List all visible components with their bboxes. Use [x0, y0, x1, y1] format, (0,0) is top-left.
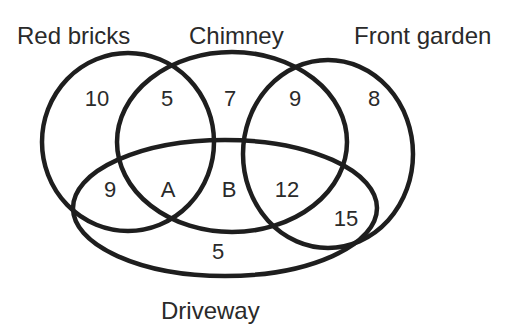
region-red-chimney: 5	[161, 86, 173, 111]
front-garden-set	[243, 60, 413, 248]
label-driveway: Driveway	[161, 297, 260, 324]
label-red-bricks: Red bricks	[17, 22, 130, 49]
region-chimney-driveway: B	[222, 177, 237, 202]
region-front-only: 8	[368, 86, 380, 111]
region-chimney-only: 7	[224, 86, 236, 111]
venn-diagram: Red bricks Chimney Front garden Driveway…	[0, 0, 523, 334]
label-front-garden: Front garden	[354, 22, 491, 49]
region-red-only: 10	[85, 86, 109, 111]
region-red-chimney-driveway: A	[161, 177, 176, 202]
region-front-driveway: 15	[334, 206, 358, 231]
label-chimney: Chimney	[189, 22, 284, 49]
region-chimney-front: 9	[289, 86, 301, 111]
region-driveway-only: 5	[212, 239, 224, 264]
driveway-set	[73, 140, 377, 276]
region-red-driveway: 9	[104, 177, 116, 202]
region-chimney-front-driveway: 12	[275, 177, 299, 202]
